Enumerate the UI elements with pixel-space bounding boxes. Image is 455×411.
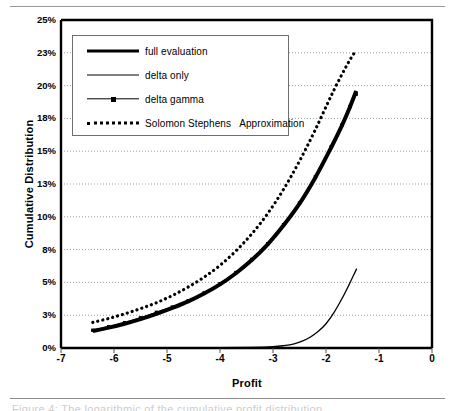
series-marker	[202, 291, 205, 294]
series-marker	[340, 123, 343, 126]
series-marker	[187, 299, 190, 302]
series-marker	[314, 175, 317, 178]
y-axis-tick-label: 0%	[22, 343, 56, 353]
series-marker	[330, 145, 333, 148]
series-marker	[171, 305, 174, 308]
series-marker	[139, 316, 142, 319]
x-axis-tick-label: -6	[101, 353, 127, 364]
legend-item-full-evaluation[interactable]: full evaluation	[73, 39, 288, 63]
figure-caption: Figure 4: The logarithmic of the cumulat…	[12, 403, 442, 411]
series-marker	[355, 92, 358, 95]
series-marker	[91, 329, 94, 332]
y-axis-tick-label: 23%	[22, 48, 56, 58]
thin-line-icon	[87, 68, 139, 82]
series-marker	[107, 325, 110, 328]
legend-item-delta-only[interactable]: delta only	[73, 63, 288, 87]
page-rule-bottom	[10, 398, 445, 399]
thick-line-icon	[87, 44, 139, 58]
x-axis-tick-label: 0	[419, 353, 445, 364]
y-axis-tick-label: 3%	[22, 310, 56, 320]
series-marker	[250, 258, 253, 261]
x-axis-tick-label: -3	[260, 353, 286, 364]
line-with-square-marker-icon	[87, 92, 139, 106]
x-axis-tick-label: -2	[313, 353, 339, 364]
x-axis-tick-label: -5	[154, 353, 180, 364]
y-axis-tick-label: 25%	[22, 15, 56, 25]
x-axis-tick-label: -4	[207, 353, 233, 364]
series-marker	[266, 242, 269, 245]
x-axis-tick-label: -1	[366, 353, 392, 364]
x-axis-tick-label: -7	[48, 353, 74, 364]
series-marker	[282, 223, 285, 226]
chart-legend: full evaluation delta only delta gamma S…	[72, 35, 289, 136]
legend-label: full evaluation	[145, 46, 208, 57]
series-marker	[348, 105, 351, 108]
legend-item-solomon-stephens-approximation[interactable]: Solomon Stephens Approximation	[73, 111, 288, 135]
series-marker	[155, 311, 158, 314]
legend-label: delta gamma	[145, 94, 204, 105]
series-marker	[298, 201, 301, 204]
y-axis-title: Cumulative Distribution	[23, 89, 35, 279]
series-marker	[234, 271, 237, 274]
figure-container: 0%3%5%8%10%13%15%18%20%23%25% -7-6-5-4-3…	[0, 0, 455, 411]
legend-label: Solomon Stephens Approximation	[145, 118, 304, 129]
series-marker	[123, 321, 126, 324]
legend-item-delta-gamma[interactable]: delta gamma	[73, 87, 288, 111]
legend-label: delta only	[145, 70, 189, 81]
dotted-line-icon	[87, 116, 139, 130]
series-marker	[218, 282, 221, 285]
x-axis-title: Profit	[61, 377, 433, 389]
